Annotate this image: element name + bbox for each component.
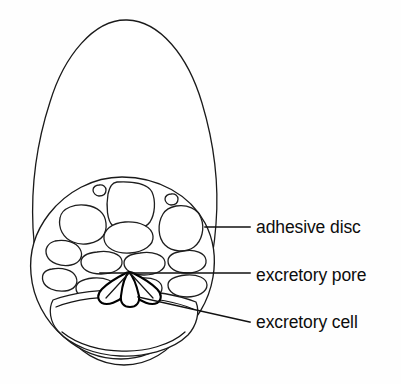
- vacuole-small-left: [93, 185, 106, 196]
- vacuole-left-lower: [42, 268, 76, 291]
- adhesive-disc-diagram: adhesive disc excretory pore excretory c…: [0, 0, 401, 384]
- vacuole-right-mid: [168, 250, 206, 273]
- vacuole-left-mid: [46, 240, 82, 265]
- vacuole-left-upper: [60, 205, 107, 244]
- labels-group: adhesive disc excretory pore excretory c…: [256, 217, 366, 332]
- vacuole-right-lower: [168, 275, 207, 297]
- label-excretory-pore: excretory pore: [256, 265, 366, 285]
- vacuole-center-left-mid: [81, 251, 122, 274]
- label-excretory-cell: excretory cell: [256, 312, 358, 332]
- vacuole-small-right: [165, 194, 178, 205]
- figure-root: adhesive disc excretory pore excretory c…: [0, 0, 401, 384]
- label-adhesive-disc: adhesive disc: [256, 217, 361, 237]
- vacuole-center-middle: [104, 222, 153, 253]
- vacuole-right-upper: [159, 206, 203, 251]
